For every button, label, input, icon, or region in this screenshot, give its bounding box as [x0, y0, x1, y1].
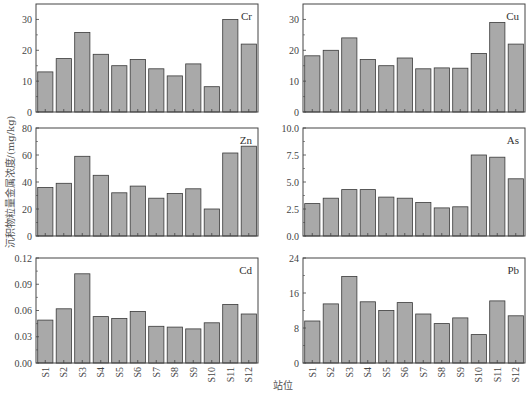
y-tick-label: 8 — [294, 323, 299, 334]
x-tick-label: S7 — [418, 367, 429, 378]
y-tick-label: 0.03 — [15, 331, 33, 342]
bar-s11 — [490, 157, 505, 236]
x-tick-label: S1 — [307, 367, 318, 378]
bar-s12 — [508, 316, 523, 363]
bar-s1 — [305, 204, 320, 236]
bar-s12 — [508, 179, 523, 236]
bar-s9 — [186, 189, 201, 236]
bar-s5 — [379, 66, 394, 112]
x-tick-label: S4 — [362, 367, 373, 378]
bar-s6 — [397, 198, 412, 236]
bar-s11 — [490, 23, 505, 113]
bar-s7 — [149, 198, 164, 236]
y-tick-label: 0.09 — [15, 279, 33, 290]
bar-s7 — [416, 69, 431, 112]
bar-s6 — [130, 311, 145, 363]
bar-s9 — [453, 318, 468, 363]
bar-s10 — [471, 53, 486, 112]
bar-s6 — [397, 303, 412, 363]
bar-s3 — [75, 156, 90, 236]
bar-s2 — [56, 59, 71, 112]
y-tick-label: 2.5 — [287, 204, 300, 215]
x-tick-label: S10 — [206, 367, 217, 383]
bar-s7 — [416, 203, 431, 237]
x-tick-label: S5 — [381, 367, 392, 378]
bar-s7 — [149, 69, 164, 112]
bar-s4 — [93, 54, 108, 112]
bar-s8 — [167, 194, 182, 237]
y-tick-label: 0 — [294, 358, 299, 369]
bar-s2 — [323, 198, 338, 236]
x-tick-label: S9 — [455, 367, 466, 378]
x-tick-label: S7 — [151, 367, 162, 378]
bar-s10 — [471, 335, 486, 363]
x-tick-label: S2 — [325, 367, 336, 378]
bar-s1 — [38, 187, 53, 236]
x-tick-label: S5 — [114, 367, 125, 378]
y-tick-label: 0.00 — [15, 358, 33, 369]
x-tick-label: S1 — [40, 367, 51, 378]
bar-s9 — [453, 207, 468, 236]
bar-s3 — [342, 38, 357, 112]
y-tick-label: 0 — [294, 107, 299, 118]
x-tick-label: S11 — [492, 367, 503, 382]
bar-s11 — [223, 19, 238, 112]
panel-cr: 0102030Cr — [22, 4, 258, 118]
bar-s7 — [416, 314, 431, 363]
bar-s9 — [186, 64, 201, 112]
bar-s5 — [379, 197, 394, 236]
y-tick-label: 20 — [22, 204, 32, 215]
y-tick-label: 80 — [22, 123, 32, 134]
panel-cd: 0.000.030.060.090.12CdS1S2S3S4S5S6S7S8S9… — [15, 253, 259, 383]
bar-s4 — [93, 317, 108, 363]
y-tick-label: 30 — [22, 14, 32, 25]
bar-s5 — [112, 66, 127, 112]
x-tick-label: S9 — [188, 367, 199, 378]
panel-label: Pb — [507, 264, 519, 276]
bar-s4 — [360, 302, 375, 363]
x-tick-label: S8 — [169, 367, 180, 378]
bar-s9 — [453, 68, 468, 112]
y-tick-label: 10 — [289, 76, 299, 87]
bar-s8 — [434, 68, 449, 112]
y-tick-label: 10 — [22, 76, 32, 87]
panel-label: Zn — [240, 134, 253, 146]
bar-s4 — [360, 190, 375, 236]
y-tick-label: 0.0 — [287, 231, 300, 242]
x-tick-label: S6 — [399, 367, 410, 378]
heavy-metal-bar-chart-figure: 0102030Cr0102030Cu020406080Zn0.02.55.07.… — [0, 0, 528, 397]
y-tick-label: 16 — [289, 288, 299, 299]
bar-s12 — [241, 314, 256, 363]
y-tick-label: 0 — [27, 107, 32, 118]
panel-pb: 081624PbS1S2S3S4S5S6S7S8S9S10S11S12 — [289, 253, 525, 383]
y-tick-label: 0.12 — [15, 253, 33, 264]
bar-s11 — [223, 304, 238, 363]
y-tick-label: 0.06 — [15, 305, 33, 316]
bar-s2 — [323, 50, 338, 112]
panel-label: As — [507, 134, 519, 146]
bar-s8 — [167, 327, 182, 363]
y-tick-label: 24 — [289, 253, 299, 264]
bar-s5 — [112, 193, 127, 236]
bar-s8 — [167, 76, 182, 112]
y-tick-label: 5.0 — [287, 177, 300, 188]
bar-s1 — [38, 72, 53, 112]
panel-label: Cd — [239, 264, 252, 276]
bar-s6 — [130, 186, 145, 236]
bar-s6 — [130, 60, 145, 113]
bar-s4 — [93, 175, 108, 236]
bar-s9 — [186, 329, 201, 363]
y-tick-label: 40 — [22, 177, 32, 188]
bar-s11 — [223, 153, 238, 236]
x-tick-label: S8 — [436, 367, 447, 378]
bar-s8 — [434, 208, 449, 236]
panel-zn: 020406080Zn — [22, 123, 258, 242]
bar-s10 — [204, 87, 219, 112]
x-axis-title: 站位 — [273, 379, 293, 391]
y-tick-label: 60 — [22, 150, 32, 161]
bar-s3 — [342, 190, 357, 236]
panel-label: Cr — [241, 10, 252, 22]
bar-s3 — [75, 32, 90, 112]
panel-label: Cu — [506, 10, 519, 22]
y-tick-label: 20 — [289, 45, 299, 56]
